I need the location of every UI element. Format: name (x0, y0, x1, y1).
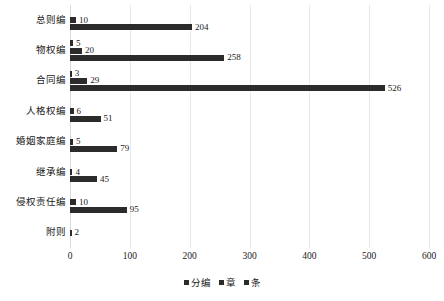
bar-value-label: 29 (90, 76, 99, 85)
legend-label: 章 (226, 275, 236, 289)
category-label: 物权编 (0, 45, 66, 56)
bar-group: 651 (70, 96, 429, 126)
gridline-600 (429, 5, 430, 248)
bar-group: 329526 (70, 66, 429, 96)
value-axis: 0100200300400500600 (0, 250, 444, 266)
bar (70, 71, 72, 77)
bar (70, 176, 97, 182)
bar-group: 2 (70, 218, 429, 248)
bar (70, 139, 73, 145)
bar-value-label: 95 (130, 205, 139, 214)
bar-chart: 总则编物权编合同编人格权编婚姻家庭编继承编侵权责任编附则 10204520258… (0, 0, 444, 301)
bar-group: 1095 (70, 187, 429, 217)
legend-item[interactable]: 条 (244, 275, 261, 289)
bar-value-label: 5 (76, 39, 81, 48)
legend-item[interactable]: 分编 (184, 275, 211, 289)
bar (70, 85, 385, 91)
legend-swatch-icon (219, 280, 224, 285)
bar (70, 24, 192, 30)
category-axis: 总则编物权编合同编人格权编婚姻家庭编继承编侵权责任编附则 (0, 5, 66, 248)
bar (70, 17, 76, 23)
bar (70, 146, 117, 152)
bar-value-label: 6 (77, 107, 82, 116)
x-axis-tick-label: 200 (170, 250, 210, 262)
bar-value-label: 45 (100, 175, 109, 184)
figure-caption (0, 292, 444, 301)
category-label: 附则 (0, 227, 66, 238)
category-label: 婚姻家庭编 (0, 136, 66, 147)
bar-value-label: 79 (120, 144, 129, 153)
bar-group: 520258 (70, 35, 429, 65)
bar (70, 78, 87, 84)
legend-swatch-icon (184, 280, 189, 285)
bar-group: 10204 (70, 5, 429, 35)
bar (70, 230, 72, 236)
category-label: 人格权编 (0, 106, 66, 117)
plot-area: 1020452025832952665157944510952 (70, 5, 429, 248)
legend-label: 分编 (191, 275, 211, 289)
x-axis-tick-label: 400 (289, 250, 329, 262)
bar-group: 579 (70, 127, 429, 157)
x-axis-tick-label: 600 (409, 250, 444, 262)
bar (70, 169, 72, 175)
bar-value-label: 2 (75, 228, 80, 237)
bar-value-label: 10 (79, 198, 88, 207)
bar (70, 40, 73, 46)
bar-value-label: 526 (388, 84, 402, 93)
bar-value-label: 3 (75, 69, 80, 78)
bar-value-label: 204 (195, 23, 209, 32)
bar (70, 199, 76, 205)
bar (70, 55, 224, 61)
bar-value-label: 10 (79, 16, 88, 25)
legend-swatch-icon (244, 280, 249, 285)
bar-value-label: 20 (85, 46, 94, 55)
x-axis-tick-label: 300 (230, 250, 270, 262)
bar (70, 108, 74, 114)
bar-value-label: 258 (227, 53, 241, 62)
category-label: 总则编 (0, 15, 66, 26)
bar (70, 207, 127, 213)
x-axis-tick-label: 100 (110, 250, 150, 262)
x-axis-tick-label: 0 (50, 250, 90, 262)
bar (70, 116, 101, 122)
x-axis-tick-label: 500 (349, 250, 389, 262)
bar (70, 48, 82, 54)
bar-value-label: 5 (76, 137, 81, 146)
chart-legend: 分编章条 (0, 275, 444, 289)
legend-label: 条 (251, 275, 261, 289)
category-label: 侵权责任编 (0, 197, 66, 208)
legend-item[interactable]: 章 (219, 275, 236, 289)
bar-group: 445 (70, 157, 429, 187)
category-label: 合同编 (0, 75, 66, 86)
category-label: 继承编 (0, 167, 66, 178)
bar-value-label: 4 (75, 168, 80, 177)
bar-value-label: 51 (104, 114, 113, 123)
